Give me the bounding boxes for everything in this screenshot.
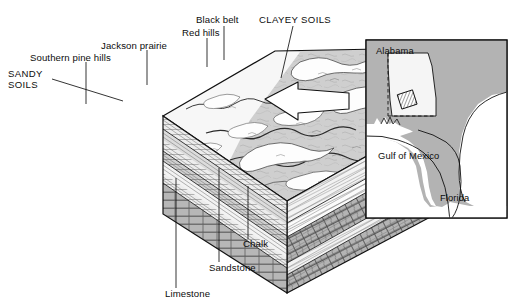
label-jackson-prairie: Jackson prairie bbox=[101, 40, 167, 51]
label-black-belt: Black belt bbox=[196, 14, 239, 25]
label-limestone: Limestone bbox=[165, 288, 210, 299]
figure-canvas: SANDY SOILS Southern pine hills Jackson … bbox=[0, 0, 514, 304]
label-clayey-soils: CLAYEY SOILS bbox=[259, 14, 331, 25]
label-red-hills: Red hills bbox=[182, 27, 220, 38]
label-sandy-soils: SANDY SOILS bbox=[8, 68, 43, 90]
label-florida: Florida bbox=[440, 192, 469, 203]
inset-map bbox=[366, 40, 507, 229]
label-chalk: Chalk bbox=[243, 238, 268, 249]
label-alabama: Alabama bbox=[376, 45, 414, 56]
label-sandstone: Sandstone bbox=[209, 262, 256, 273]
label-gulf-of-mexico: Gulf of Mexico bbox=[378, 150, 439, 161]
leader-sandy-soils bbox=[52, 79, 123, 101]
label-southern-pine-hills: Southern pine hills bbox=[30, 52, 111, 63]
